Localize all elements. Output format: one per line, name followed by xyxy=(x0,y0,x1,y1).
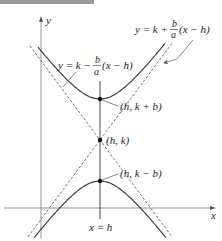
fraction-denominator: a xyxy=(94,66,99,77)
axis-of-symmetry-label: x = h xyxy=(88,221,113,233)
positive-asymptote-leader-arrow xyxy=(164,59,177,63)
equation-lhs: y = k − xyxy=(57,59,91,71)
x-axis-label: x xyxy=(210,209,216,221)
asymptote-equation-positive: y = k + b a (x − h) xyxy=(134,18,210,40)
equation-rhs: (x − h) xyxy=(179,23,210,36)
center-label: (h, k) xyxy=(106,134,130,147)
upper-vertex-leader xyxy=(102,100,118,106)
equation-lhs: y = k + xyxy=(134,23,168,35)
negative-asymptote-leader xyxy=(63,72,76,87)
asymptote-equation-negative: y = k − b a (x − h) xyxy=(57,54,133,77)
center-point xyxy=(98,138,102,142)
hyperbola-upper-branch xyxy=(38,44,165,100)
fraction-denominator: a xyxy=(171,29,176,40)
upper-vertex-label: (h, k + b) xyxy=(120,100,162,113)
fraction-numerator: b xyxy=(172,18,177,29)
y-axis-arrow-icon xyxy=(39,16,43,22)
lower-vertex-label: (h, k − b) xyxy=(120,167,162,180)
positive-asymptote-leader xyxy=(177,40,193,59)
equation-rhs: (x − h) xyxy=(102,59,133,72)
lower-vertex-point xyxy=(98,179,102,183)
hyperbola-diagram: y x (h, k + b) (h, k) (h, k − b) x = h y… xyxy=(0,0,222,241)
fraction-numerator: b xyxy=(95,54,100,65)
lower-vertex-leader xyxy=(102,174,118,180)
upper-vertex-point xyxy=(98,97,102,101)
y-axis-label: y xyxy=(45,14,51,26)
